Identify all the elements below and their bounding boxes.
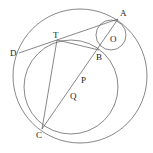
label-p: P	[81, 76, 86, 85]
outer-circle	[13, 9, 147, 143]
label-a: A	[120, 9, 127, 18]
segment-tc	[42, 40, 57, 129]
label-b: B	[96, 53, 102, 62]
label-c: C	[36, 131, 42, 140]
label-d: D	[10, 49, 17, 58]
label-t: T	[53, 31, 59, 40]
diagram-canvas	[0, 0, 153, 153]
geometry-diagram: A O B T D C P Q	[0, 0, 153, 153]
label-q: Q	[70, 92, 77, 101]
label-o: O	[110, 35, 117, 44]
